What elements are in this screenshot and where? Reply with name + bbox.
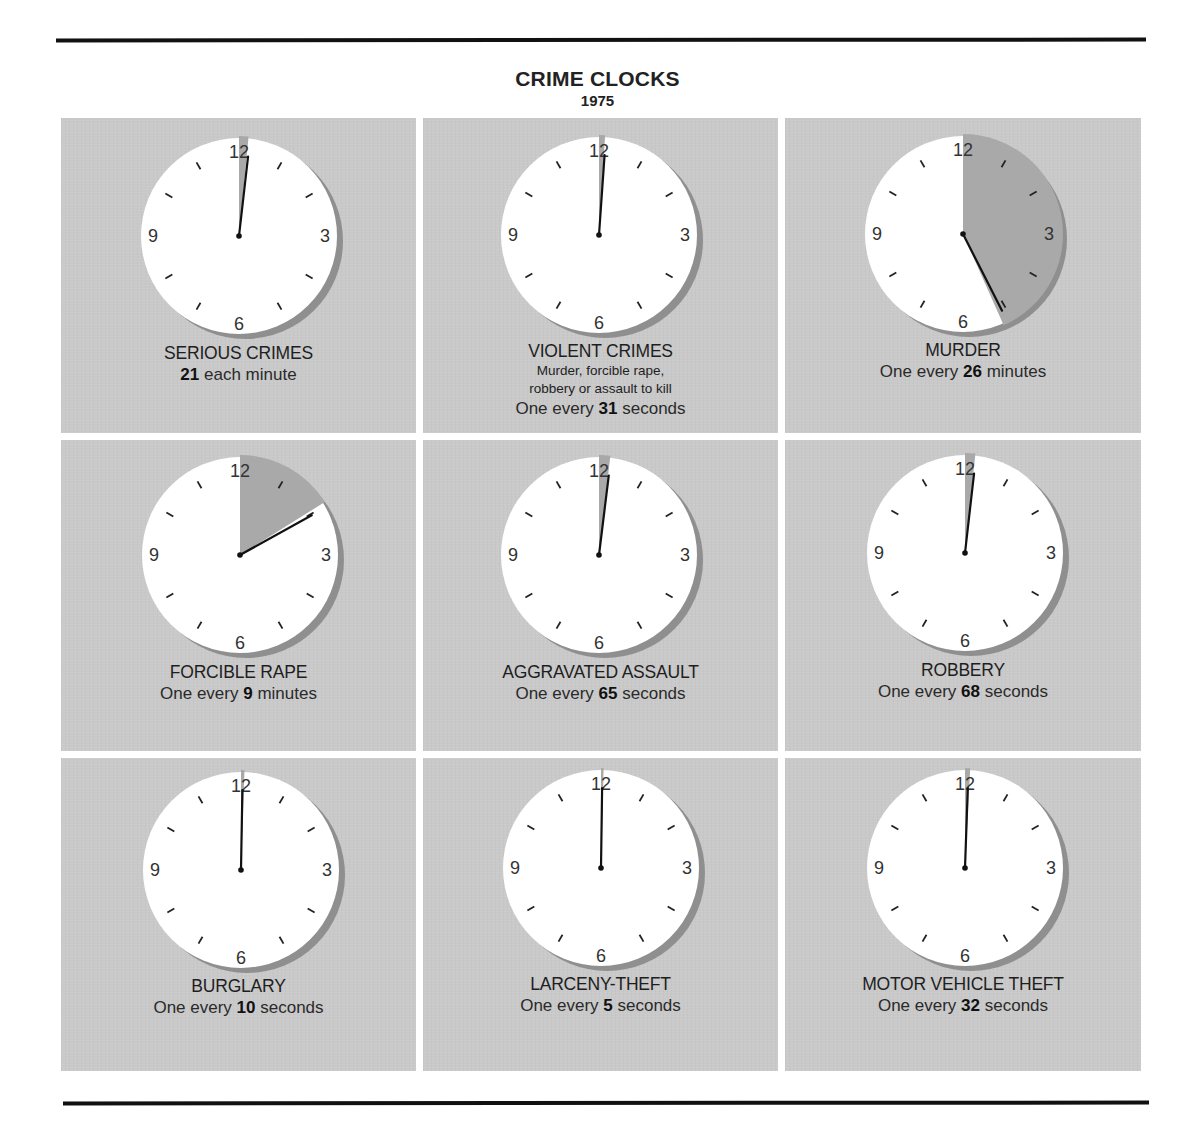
panel-burglary: 12369 BURGLARY One every 10 seconds — [61, 758, 416, 1071]
clock-caption: AGGRAVATED ASSAULT One every 65 seconds — [423, 662, 778, 704]
crime-description-line-2: robbery or assault to kill — [423, 380, 778, 398]
dial-numeral-6: 6 — [594, 313, 604, 333]
crime-name: FORCIBLE RAPE — [61, 662, 416, 683]
dial-numeral-9: 9 — [508, 225, 518, 245]
clock-caption: LARCENY-THEFT One every 5 seconds — [423, 974, 778, 1016]
dial-numeral-3: 3 — [1046, 543, 1056, 563]
dial-numeral-9: 9 — [874, 858, 884, 878]
rate-prefix: One every — [515, 399, 598, 418]
dial-numeral-12: 12 — [953, 140, 973, 160]
dial-numeral-6: 6 — [958, 312, 968, 332]
rate-suffix: each minute — [199, 365, 296, 384]
rate-suffix: seconds — [618, 399, 686, 418]
clock-caption: FORCIBLE RAPE One every 9 minutes — [61, 662, 416, 704]
crime-rate: One every 65 seconds — [423, 683, 778, 704]
panel-robbery: 12369 ROBBERY One every 68 seconds — [785, 440, 1141, 751]
clock-hub — [237, 552, 243, 558]
chart-year: 1975 — [0, 93, 1195, 109]
dial-numeral-3: 3 — [321, 545, 331, 565]
clock-face-chart: 12369 — [61, 758, 416, 1071]
dial-numeral-3: 3 — [680, 545, 690, 565]
crime-rate: One every 10 seconds — [61, 997, 416, 1018]
chart-title: CRIME CLOCKS — [0, 68, 1195, 90]
rate-prefix: One every — [878, 996, 961, 1015]
rate-prefix: One every — [153, 998, 236, 1017]
clock-face-chart: 12369 — [423, 440, 778, 751]
rate-value: 32 — [961, 996, 980, 1015]
clock-hub — [962, 865, 968, 871]
crime-name: MOTOR VEHICLE THEFT — [785, 974, 1141, 995]
dial-numeral-6: 6 — [236, 948, 246, 968]
rate-suffix: minutes — [253, 684, 317, 703]
dial-numeral-9: 9 — [149, 545, 159, 565]
clock-face-chart: 12369 — [785, 118, 1141, 433]
clock-hub — [238, 867, 244, 873]
dial-numeral-6: 6 — [960, 631, 970, 651]
rate-suffix: minutes — [982, 362, 1046, 381]
bottom-rule — [63, 1101, 1149, 1106]
dial-numeral-3: 3 — [682, 858, 692, 878]
clock-face-chart: 12369 — [785, 440, 1141, 751]
crime-name: ROBBERY — [785, 660, 1141, 681]
panel-motor-vehicle-theft: 12369 MOTOR VEHICLE THEFT One every 32 s… — [785, 758, 1141, 1071]
rate-suffix: seconds — [256, 998, 324, 1017]
rate-prefix: One every — [878, 682, 961, 701]
dial-numeral-12: 12 — [589, 461, 609, 481]
dial-numeral-6: 6 — [960, 946, 970, 966]
crime-clock-grid: 12369 SERIOUS CRIMES 21 each minute 1236… — [61, 118, 1141, 1071]
clock-face-chart: 12369 — [61, 440, 416, 751]
panel-larceny-theft: 12369 LARCENY-THEFT One every 5 seconds — [423, 758, 778, 1071]
rate-prefix: One every — [520, 996, 603, 1015]
rate-suffix: seconds — [618, 684, 686, 703]
dial-numeral-9: 9 — [508, 545, 518, 565]
dial-numeral-6: 6 — [596, 946, 606, 966]
panel-aggravated-assault: 12369 AGGRAVATED ASSAULT One every 65 se… — [423, 440, 778, 751]
dial-numeral-3: 3 — [680, 225, 690, 245]
dial-numeral-12: 12 — [589, 141, 609, 161]
clock-hand — [241, 790, 242, 870]
dial-numeral-12: 12 — [231, 776, 251, 796]
panel-murder: 12369 MURDER One every 26 minutes — [785, 118, 1141, 433]
rate-value: 31 — [599, 399, 618, 418]
panel-violent-crimes: 12369 VIOLENT CRIMES Murder, forcible ra… — [423, 118, 778, 433]
dial-numeral-6: 6 — [594, 633, 604, 653]
rate-value: 26 — [963, 362, 982, 381]
dial-numeral-9: 9 — [148, 226, 158, 246]
dial-numeral-3: 3 — [1044, 224, 1054, 244]
rate-value: 68 — [961, 682, 980, 701]
dial-numeral-3: 3 — [1046, 858, 1056, 878]
top-rule — [56, 38, 1146, 43]
clock-caption: MURDER One every 26 minutes — [785, 340, 1141, 382]
dial-numeral-9: 9 — [872, 224, 882, 244]
rate-value: 10 — [237, 998, 256, 1017]
panel-forcible-rape: 12369 FORCIBLE RAPE One every 9 minutes — [61, 440, 416, 751]
crime-rate: One every 31 seconds — [423, 398, 778, 419]
crime-rate: One every 32 seconds — [785, 995, 1141, 1016]
rate-value: 9 — [243, 684, 252, 703]
dial-numeral-6: 6 — [235, 633, 245, 653]
rate-suffix: seconds — [613, 996, 681, 1015]
dial-numeral-9: 9 — [874, 543, 884, 563]
dial-numeral-3: 3 — [322, 860, 332, 880]
rate-value: 65 — [599, 684, 618, 703]
clock-caption: ROBBERY One every 68 seconds — [785, 660, 1141, 702]
crime-name: VIOLENT CRIMES — [423, 341, 778, 362]
dial-numeral-12: 12 — [230, 461, 250, 481]
clock-hub — [236, 233, 242, 239]
clock-hub — [598, 865, 604, 871]
rate-prefix: One every — [160, 684, 243, 703]
crime-rate: 21 each minute — [61, 364, 416, 385]
dial-numeral-12: 12 — [955, 459, 975, 479]
crime-name: BURGLARY — [61, 976, 416, 997]
clock-hub — [960, 231, 966, 237]
clock-caption: VIOLENT CRIMES Murder, forcible rape, ro… — [423, 341, 778, 419]
rate-value: 21 — [180, 365, 199, 384]
dial-numeral-3: 3 — [320, 226, 330, 246]
clock-caption: BURGLARY One every 10 seconds — [61, 976, 416, 1018]
clock-face-chart: 12369 — [61, 118, 416, 433]
crime-rate: One every 68 seconds — [785, 681, 1141, 702]
clock-face-chart: 12369 — [423, 758, 778, 1071]
crime-name: SERIOUS CRIMES — [61, 343, 416, 364]
rate-value: 5 — [603, 996, 612, 1015]
crime-name: LARCENY-THEFT — [423, 974, 778, 995]
